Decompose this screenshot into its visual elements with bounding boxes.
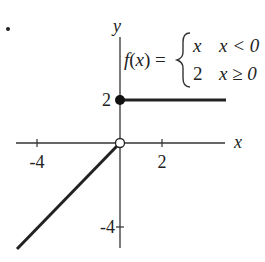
x-axis-label: x	[233, 132, 242, 152]
x-tick-label: -4	[30, 152, 45, 172]
x-tick-label: 2	[158, 152, 167, 172]
y-tick-label: 2	[102, 90, 111, 110]
brace	[177, 33, 190, 87]
closed-endpoint	[115, 95, 125, 105]
case-1-expr: x	[192, 35, 202, 56]
function-label: f(x) =	[124, 49, 166, 71]
list-bullet	[6, 27, 10, 31]
piecewise-graph: -4 2 2 -4 x y f(x) = x x < 0 2 x ≥ 0	[0, 0, 265, 262]
y-tick-label: -4	[100, 217, 115, 237]
y-axis-label: y	[111, 16, 121, 36]
open-endpoint	[116, 139, 125, 148]
case-1-condition: x < 0	[218, 35, 260, 56]
case-2-condition: x ≥ 0	[218, 63, 257, 84]
case-2-expr: 2	[193, 63, 203, 84]
